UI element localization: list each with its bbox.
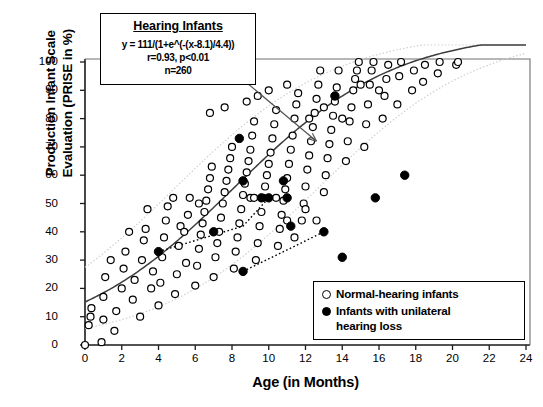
data-point-normal-hearing [195,245,202,252]
data-point-normal-hearing [212,254,219,261]
annotation-sample-size: n=260 [106,64,250,77]
data-point-normal-hearing [173,271,180,278]
data-point-normal-hearing [313,95,320,102]
data-point-normal-hearing [164,203,171,210]
data-point-normal-hearing [137,313,144,320]
data-point-normal-hearing [293,101,300,108]
data-point-normal-hearing [368,67,375,74]
data-point-normal-hearing [258,208,265,215]
data-point-normal-hearing [335,67,342,74]
data-point-unilateral-loss [265,194,273,202]
chart-figure: Production Infant Scale Evaluation (PRIS… [0,0,543,407]
data-point-normal-hearing [102,274,109,281]
data-point-normal-hearing [186,194,193,201]
data-point-unilateral-loss [239,267,247,275]
data-point-normal-hearing [100,293,107,300]
data-point-normal-hearing [291,234,298,241]
data-point-normal-hearing [328,126,335,133]
data-point-normal-hearing [346,118,353,125]
data-point-normal-hearing [138,257,145,264]
legend-label-unilateral-loss-line2: hearing loss [336,319,402,332]
data-point-normal-hearing [113,308,120,315]
legend-label-unilateral-loss-line1: Infants with unilateral [336,304,451,317]
data-point-normal-hearing [276,225,283,232]
data-point-normal-hearing [254,240,261,247]
annotation-box: Hearing Infants y = 111/(1+e^(-(x-8.1)/4… [100,13,256,85]
data-point-normal-hearing [82,342,89,349]
annotation-title: Hearing Infants [106,18,250,35]
data-point-normal-hearing [210,274,217,281]
data-point-normal-hearing [122,248,129,255]
data-point-normal-hearing [262,183,269,190]
data-point-normal-hearing [285,160,292,167]
data-point-normal-hearing [249,132,256,139]
data-point-normal-hearing [302,183,309,190]
data-point-normal-hearing [289,132,296,139]
unilateral-loss-trend-lower [243,232,324,272]
data-point-normal-hearing [221,104,228,111]
data-point-normal-hearing [420,78,427,85]
data-point-normal-hearing [376,87,383,94]
data-point-normal-hearing [302,206,309,213]
data-point-normal-hearing [184,211,191,218]
data-point-normal-hearing [208,163,215,170]
data-point-normal-hearing [157,279,164,286]
data-point-normal-hearing [183,259,190,266]
data-point-normal-hearing [206,109,213,116]
data-point-normal-hearing [265,87,272,94]
data-point-normal-hearing [353,67,360,74]
data-point-normal-hearing [398,59,405,66]
data-point-normal-hearing [410,67,417,74]
data-point-normal-hearing [243,98,250,105]
data-point-normal-hearing [199,220,206,227]
legend-label-unilateral-loss: Infants with unilateral hearing loss [336,304,451,333]
data-point-normal-hearing [267,149,274,156]
data-point-normal-hearing [217,214,224,221]
data-point-normal-hearing [120,265,127,272]
data-point-normal-hearing [304,166,311,173]
data-point-unilateral-loss [239,177,247,185]
data-point-normal-hearing [195,200,202,207]
data-point-normal-hearing [330,112,337,119]
data-point-normal-hearing [251,194,258,201]
data-point-normal-hearing [383,75,390,82]
data-point-normal-hearing [317,67,324,74]
data-point-normal-hearing [162,217,169,224]
data-point-normal-hearing [227,155,234,162]
data-point-normal-hearing [98,339,105,346]
data-point-normal-hearing [309,124,316,131]
data-point-normal-hearing [170,194,177,201]
data-point-normal-hearing [315,81,322,88]
data-point-normal-hearing [379,115,386,122]
annotation-equation: y = 111/(1+e^(-(x-8.1)/4.4)) [106,38,250,51]
data-point-normal-hearing [311,109,318,116]
data-point-normal-hearing [118,285,125,292]
data-point-normal-hearing [342,158,349,165]
data-point-normal-hearing [265,160,272,167]
data-point-normal-hearing [175,242,182,249]
data-point-normal-hearing [348,104,355,111]
data-point-normal-hearing [243,169,250,176]
data-point-normal-hearing [273,194,280,201]
data-point-normal-hearing [306,115,313,122]
filled-circle-icon [322,307,331,316]
data-point-normal-hearing [85,322,92,329]
data-point-normal-hearing [364,101,371,108]
data-point-normal-hearing [230,265,237,272]
data-point-normal-hearing [252,257,259,264]
data-point-normal-hearing [100,316,107,323]
data-point-normal-hearing [223,177,230,184]
data-point-normal-hearing [295,90,302,97]
data-point-normal-hearing [206,175,213,182]
data-point-normal-hearing [370,59,377,66]
data-point-normal-hearing [214,240,221,247]
data-point-normal-hearing [298,217,305,224]
data-point-normal-hearing [256,223,263,230]
data-point-normal-hearing [355,59,362,66]
data-point-normal-hearing [234,234,241,241]
data-point-normal-hearing [87,313,94,320]
data-point-normal-hearing [144,206,151,213]
data-point-normal-hearing [409,87,416,94]
data-point-normal-hearing [111,327,118,334]
data-point-normal-hearing [88,305,95,312]
